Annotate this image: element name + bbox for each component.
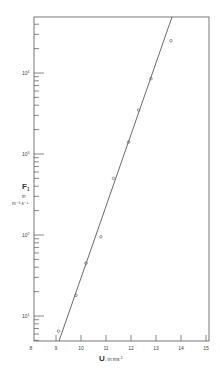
chart: 101102103104 89101112131415 F1 in m⁻² s⁻…: [0, 0, 220, 373]
fit-line: [59, 17, 172, 341]
data-point: [100, 236, 103, 239]
x-tick-label: 8: [30, 345, 33, 351]
data-point: [112, 177, 115, 180]
x-tick-label: 12: [128, 345, 134, 351]
y-axis-title-in: in: [22, 194, 26, 199]
data-points: [57, 39, 172, 332]
x-axis-ticks: 89101112131415: [30, 335, 209, 351]
y-tick-label: 101: [22, 313, 30, 319]
y-tick-label: 102: [22, 232, 30, 238]
x-tick-label: 9: [55, 345, 58, 351]
plot-frame: [34, 17, 209, 341]
x-axis-title: U, in ms-1: [99, 354, 123, 363]
data-point: [170, 39, 173, 42]
regression-line: [59, 17, 172, 341]
data-point: [57, 330, 60, 333]
x-tick-label: 10: [78, 345, 84, 351]
y-tick-label: 104: [22, 70, 30, 76]
y-axis-title: F1: [22, 182, 30, 192]
x-tick-label: 15: [203, 345, 209, 351]
y-tick-label: 103: [22, 151, 30, 157]
y-axis-title-unit: m⁻² s⁻¹: [12, 201, 29, 206]
x-tick-label: 13: [153, 345, 159, 351]
x-tick-label: 14: [178, 345, 184, 351]
x-tick-label: 11: [103, 345, 108, 351]
